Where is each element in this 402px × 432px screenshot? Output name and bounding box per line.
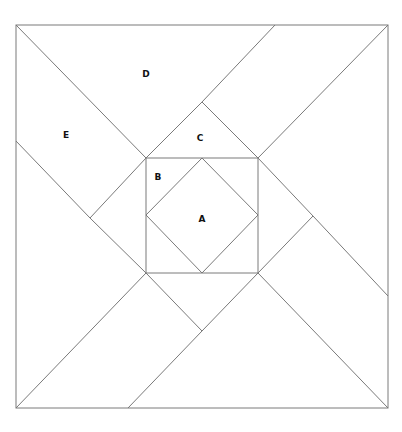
label-b: B [155,172,162,182]
label-e: E [63,130,69,140]
label-c: C [197,133,204,143]
label-a: A [199,214,206,224]
segment-tl-corner-to-inner [16,25,146,158]
segment-inner-br-to-br-corner [258,273,388,408]
segment-inner-tl-to-top-apex [146,102,202,158]
segment-right-apex-to-right-edge [313,216,388,296]
segment-inner-br-to-bottom-apex [202,273,258,331]
segment-top-apex-to-inner-tr [202,102,258,158]
segment-top-apex-to-top-edge [202,25,275,102]
segment-left-apex-to-left-edge [16,141,90,218]
segment-left-apex-to-inner-tl [90,158,146,218]
label-d: D [142,69,149,79]
segment-right-apex-to-inner-br [258,216,313,273]
segment-inner-bl-to-left-apex [90,218,146,273]
segment-bottom-apex-to-bottom-edge [128,331,202,408]
segment-inner-tr-to-tr-corner [258,25,388,158]
segment-inner-tr-to-right-apex [258,158,313,216]
tangram-square-diagram: D E C B A [0,0,402,432]
segment-inner-bl-to-bl-corner [16,273,146,408]
segment-bottom-apex-to-inner-bl [146,273,202,331]
